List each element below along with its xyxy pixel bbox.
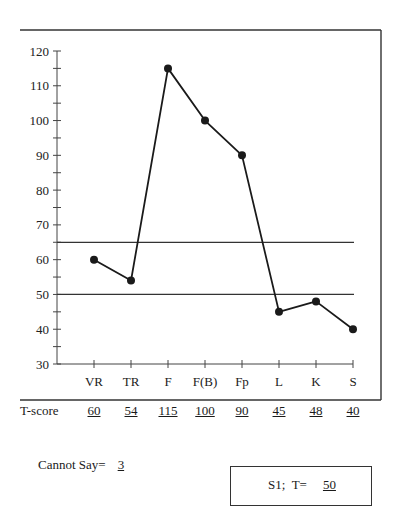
t-score-value: 115 (158, 403, 177, 419)
x-tick-label: K (311, 374, 321, 389)
y-tick-label: 90 (36, 148, 49, 163)
y-axis: 30405060708090100110120 (30, 44, 62, 372)
data-series-line (90, 64, 357, 333)
t-score-value: 90 (236, 403, 249, 419)
data-point-L (275, 308, 283, 316)
x-tick-label: Fp (235, 374, 249, 389)
y-tick-label: 110 (30, 78, 49, 93)
data-point-F(B) (201, 117, 209, 125)
y-tick-label: 40 (36, 322, 49, 337)
y-tick-label: 80 (36, 183, 49, 198)
data-point-F (164, 64, 172, 72)
s1-value: 50 (323, 477, 336, 492)
t-score-value: 40 (347, 403, 360, 419)
y-tick-label: 50 (36, 287, 49, 302)
x-tick-label: S (349, 374, 356, 389)
s1-text: S1; T=50 (268, 477, 336, 493)
data-point-TR (127, 277, 135, 285)
y-tick-label: 100 (30, 113, 50, 128)
reference-lines (57, 242, 354, 294)
cannot-say-label: Cannot Say= (38, 457, 106, 472)
t-score-value: 100 (195, 403, 215, 419)
t-score-value: 54 (125, 403, 138, 419)
t-score-value: 48 (310, 403, 323, 419)
data-point-Fp (238, 151, 246, 159)
chart-frame (20, 30, 381, 400)
x-tick-label: L (275, 374, 283, 389)
x-tick-label: VR (85, 374, 103, 389)
cannot-say: Cannot Say=3 (38, 457, 124, 473)
t-score-row-label: T-score (20, 403, 59, 419)
t-score-value: 45 (273, 403, 286, 419)
x-tick-label: F(B) (193, 374, 218, 389)
s1-score-box: S1; T=50 (230, 466, 372, 506)
x-tick-label: TR (123, 374, 140, 389)
cannot-say-value: 3 (118, 457, 125, 472)
y-tick-label: 70 (36, 217, 49, 232)
s1-label: S1; T= (268, 477, 307, 492)
y-tick-label: 60 (36, 252, 49, 267)
data-point-K (312, 297, 320, 305)
data-point-VR (90, 256, 98, 264)
t-score-value: 60 (88, 403, 101, 419)
y-tick-label: 120 (30, 44, 50, 59)
y-tick-label: 30 (36, 357, 49, 372)
x-axis: VRTRFF(B)FpLKS (57, 360, 357, 389)
x-tick-label: F (164, 374, 171, 389)
data-point-S (349, 325, 357, 333)
